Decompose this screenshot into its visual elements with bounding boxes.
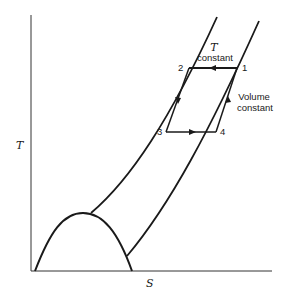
point-label-3: 3 [157,127,162,137]
point-label-4: 4 [220,127,225,137]
ts-diagram [0,0,284,296]
point-label-1: 1 [242,63,247,73]
x-axis-label: S [146,278,154,289]
point-label-2: 2 [178,63,183,73]
arrow-1-2-icon [209,65,216,71]
volume-constant-label-volume: Volume [234,92,274,102]
t-constant-label-constant: constant [192,53,238,63]
arrow-3-4-icon [189,129,196,135]
left-constant-curve [91,17,217,213]
saturation-dome [35,213,132,271]
volume-constant-label-constant: constant [232,103,278,113]
y-axis-label: T [16,140,23,151]
